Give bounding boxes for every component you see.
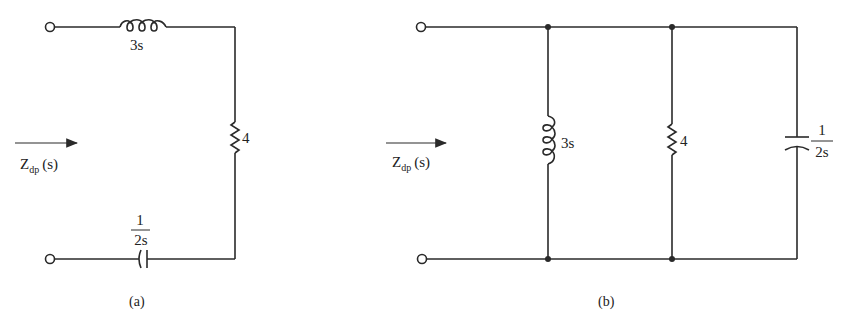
caption-a: (a) xyxy=(129,294,145,310)
circuit-figure: 3s 4 1 2s Zdp(s) (a) 3s xyxy=(0,0,843,335)
resistor-label: 4 xyxy=(242,130,250,146)
capacitor-numerator: 1 xyxy=(136,212,144,228)
caption-b: (b) xyxy=(598,294,615,310)
impedance-label-a: Zdp(s) xyxy=(20,156,58,175)
capacitor-numerator: 1 xyxy=(818,122,826,138)
circuit-a: 3s 4 1 2s Zdp(s) (a) xyxy=(15,20,250,310)
circuit-b: 3s 4 1 2s Zdp(s) (b) xyxy=(386,23,833,311)
inductor-label: 3s xyxy=(130,37,144,53)
inductor-icon xyxy=(120,20,166,31)
terminal-bottom-b xyxy=(418,255,427,264)
inductor-icon xyxy=(543,116,555,164)
inductor-label: 3s xyxy=(561,135,575,151)
terminal-bottom-a xyxy=(46,255,55,264)
capacitor-icon xyxy=(139,250,141,268)
capacitor-denominator: 2s xyxy=(134,232,148,248)
resistor-icon xyxy=(668,124,676,155)
capacitor-denominator: 2s xyxy=(815,144,829,160)
resistor-icon xyxy=(231,122,239,153)
terminal-top-b xyxy=(417,23,426,32)
resistor-label: 4 xyxy=(680,133,688,149)
terminal-top-a xyxy=(46,23,55,32)
impedance-label-b: Zdp(s) xyxy=(392,154,430,173)
